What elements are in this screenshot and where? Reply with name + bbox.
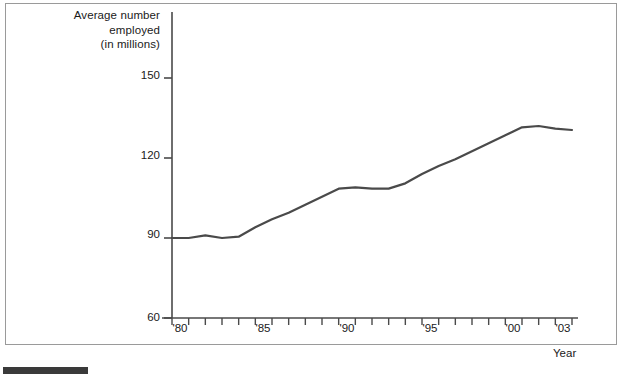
y-axis-title-line-3: (in millions) <box>38 37 160 52</box>
y-tick-label-60: 60 <box>126 311 160 323</box>
x-tick-label-90: '90 <box>330 322 364 334</box>
footer-rule <box>3 367 88 374</box>
figure-frame <box>5 3 617 345</box>
figure-container: Average number employed (in millions) 15… <box>0 0 632 377</box>
x-tick-label-95: '95 <box>413 322 447 334</box>
y-axis-title-line-2: employed <box>38 23 160 38</box>
x-tick-label-80: '80 <box>163 322 197 334</box>
x-tick-label-03: '03 <box>546 322 580 334</box>
y-axis-title: Average number employed (in millions) <box>38 8 160 52</box>
y-tick-label-150: 150 <box>126 69 160 81</box>
y-axis-title-line-1: Average number <box>38 8 160 23</box>
y-tick-label-120: 120 <box>126 149 160 161</box>
y-tick-label-90: 90 <box>126 228 160 240</box>
x-tick-label-85: '85 <box>246 322 280 334</box>
x-tick-label-00: '00 <box>496 322 530 334</box>
x-axis-title: Year <box>553 347 576 359</box>
